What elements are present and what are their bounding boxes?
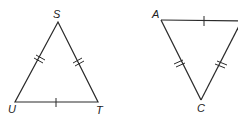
edge-ac bbox=[161, 20, 201, 100]
edge-ab bbox=[161, 20, 238, 21]
vertex-label-t: T bbox=[96, 104, 104, 116]
vertex-label-a: A bbox=[151, 8, 159, 20]
vertex-label-s: S bbox=[53, 8, 61, 20]
geometry-figure: S U T A C bbox=[0, 0, 238, 124]
vertex-label-c: C bbox=[197, 102, 205, 114]
triangle-sut-outline bbox=[15, 22, 98, 102]
vertex-label-u: U bbox=[8, 103, 16, 115]
triangle-sut: S U T bbox=[8, 8, 104, 116]
triangle-abc: A C bbox=[151, 8, 238, 114]
